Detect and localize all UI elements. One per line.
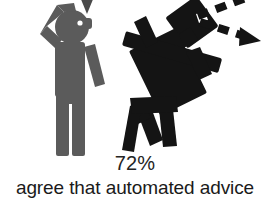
motion-arrow-head-icon [239, 27, 261, 46]
speech-bubble-tail-icon [78, 0, 96, 14]
stat-description: agree that automated advice [0, 177, 270, 199]
caption: 72% agree that automated advice [0, 152, 270, 199]
infographic-illustration: 72% agree that automated advice [0, 0, 270, 202]
human-figure-icon [40, 3, 105, 156]
stat-value: 72% [0, 152, 270, 175]
human-eye-icon [77, 20, 82, 25]
motion-arrow-upper-icon [198, 0, 270, 16]
